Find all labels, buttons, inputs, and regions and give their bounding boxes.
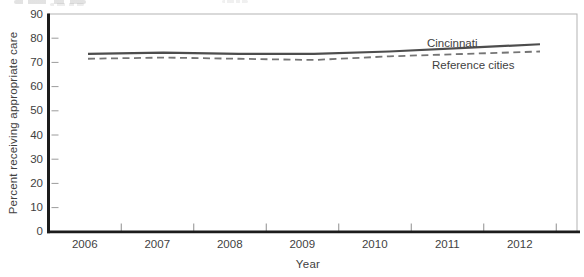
x-tick-label: 2009 [280, 238, 324, 251]
x-axis-title: Year [268, 258, 348, 271]
y-tick-label: 90 [10, 8, 43, 21]
x-tick-label: 2008 [208, 238, 252, 251]
line-chart-figure: 90 80 70 60 50 40 30 20 10 0 2006 2007 2… [0, 0, 584, 277]
series-label-cincinnati: Cincinnati [427, 37, 478, 50]
series-label-reference-cities: Reference cities [432, 59, 514, 72]
y-tick-label: 0 [10, 225, 43, 238]
y-axis-title: Percent receiving appropriate care [7, 32, 20, 215]
x-tick-label: 2010 [353, 238, 397, 251]
x-tick-label: 2006 [63, 238, 107, 251]
x-tick-label: 2012 [498, 238, 542, 251]
x-tick-marks [121, 224, 556, 232]
y-tick-marks [52, 38, 59, 207]
x-tick-label: 2007 [135, 238, 179, 251]
x-tick-label: 2011 [425, 238, 469, 251]
plot-canvas [0, 0, 584, 277]
